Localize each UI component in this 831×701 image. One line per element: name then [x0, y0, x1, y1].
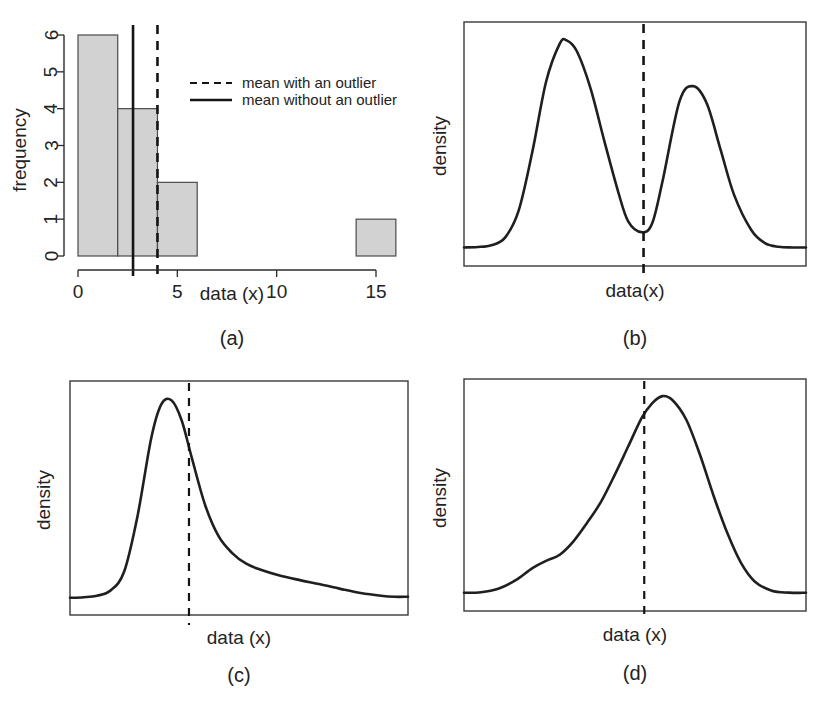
- figure-root: 0123456051015 mean with an outliermean w…: [0, 0, 831, 701]
- histogram-bar: [356, 219, 396, 256]
- panel-a-legend: mean with an outliermean without an outl…: [190, 74, 397, 108]
- panel-d-plot-box: [464, 379, 806, 611]
- legend-label: mean without an outlier: [242, 91, 397, 108]
- histogram-bar: [118, 109, 158, 256]
- panel-d-x-axis-label: data (x): [603, 624, 667, 645]
- panel-a-bars: [78, 35, 396, 256]
- panel-c-x-axis-label: data (x): [207, 627, 271, 648]
- panel-c-density-curve: [70, 399, 408, 598]
- panel-c-caption: (c): [227, 664, 250, 686]
- y-tick-label: 2: [41, 177, 62, 188]
- y-tick-label: 1: [41, 214, 62, 225]
- y-tick-label: 3: [41, 140, 62, 151]
- panel-d-caption: (d): [623, 662, 647, 684]
- panel-b-svg: data(x) density (b): [416, 0, 831, 360]
- y-tick-label: 5: [41, 67, 62, 78]
- y-tick-label: 6: [41, 30, 62, 41]
- panel-a-y-axis-label: frequency: [9, 108, 30, 192]
- panel-b-caption: (b): [623, 327, 647, 349]
- panel-c-right-skewed-density: data (x) density (c): [0, 360, 415, 701]
- panel-d-y-axis-label: density: [429, 467, 450, 528]
- x-tick-label: 0: [73, 281, 84, 302]
- panel-b-x-axis-label: data(x): [605, 280, 664, 301]
- panel-c-svg: data (x) density (c): [0, 360, 415, 701]
- panel-d-svg: data (x) density (d): [416, 360, 831, 701]
- y-tick-label: 0: [41, 251, 62, 262]
- histogram-bar: [157, 182, 197, 256]
- panel-d-density-curve: [464, 396, 806, 593]
- x-tick-label: 10: [266, 281, 287, 302]
- x-tick-label: 15: [365, 281, 386, 302]
- histogram-bar: [78, 35, 118, 256]
- panel-b-density-curve: [464, 39, 806, 248]
- legend-label: mean with an outlier: [242, 74, 376, 91]
- panel-a-x-axis-label: data (x): [200, 283, 264, 304]
- panel-a-svg: 0123456051015 mean with an outliermean w…: [0, 0, 415, 360]
- panel-a-axes: 0123456051015: [0, 0, 387, 302]
- panel-b-bimodal-density: data(x) density (b): [416, 0, 831, 360]
- panel-a-caption: (a): [220, 327, 244, 349]
- panel-a-histogram: 0123456051015 mean with an outliermean w…: [0, 0, 415, 360]
- panel-d-left-skewed-density: data (x) density (d): [416, 360, 831, 701]
- panel-b-y-axis-label: density: [429, 115, 450, 176]
- x-tick-label: 5: [172, 281, 183, 302]
- y-tick-label: 4: [41, 103, 62, 114]
- panel-c-y-axis-label: density: [33, 469, 54, 530]
